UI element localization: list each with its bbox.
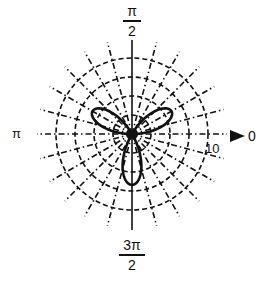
label-top-numerator: π — [123, 4, 141, 19]
fraction-bar — [119, 254, 145, 256]
label-top-denominator: 2 — [123, 24, 141, 39]
grid-spoke — [40, 134, 132, 159]
label-3pi-over-2: 3π 2 — [119, 238, 145, 273]
label-pi-over-2: π 2 — [123, 4, 141, 39]
label-zero: 0 — [248, 129, 256, 143]
label-bottom-numerator: 3π — [119, 238, 145, 253]
label-bottom-denominator: 2 — [119, 258, 145, 273]
grid-spoke — [132, 134, 157, 226]
fraction-bar — [123, 20, 141, 22]
zero-direction-arrow-icon — [230, 130, 245, 142]
radial-tick-label: 10 — [205, 142, 219, 156]
label-pi: π — [12, 127, 21, 141]
